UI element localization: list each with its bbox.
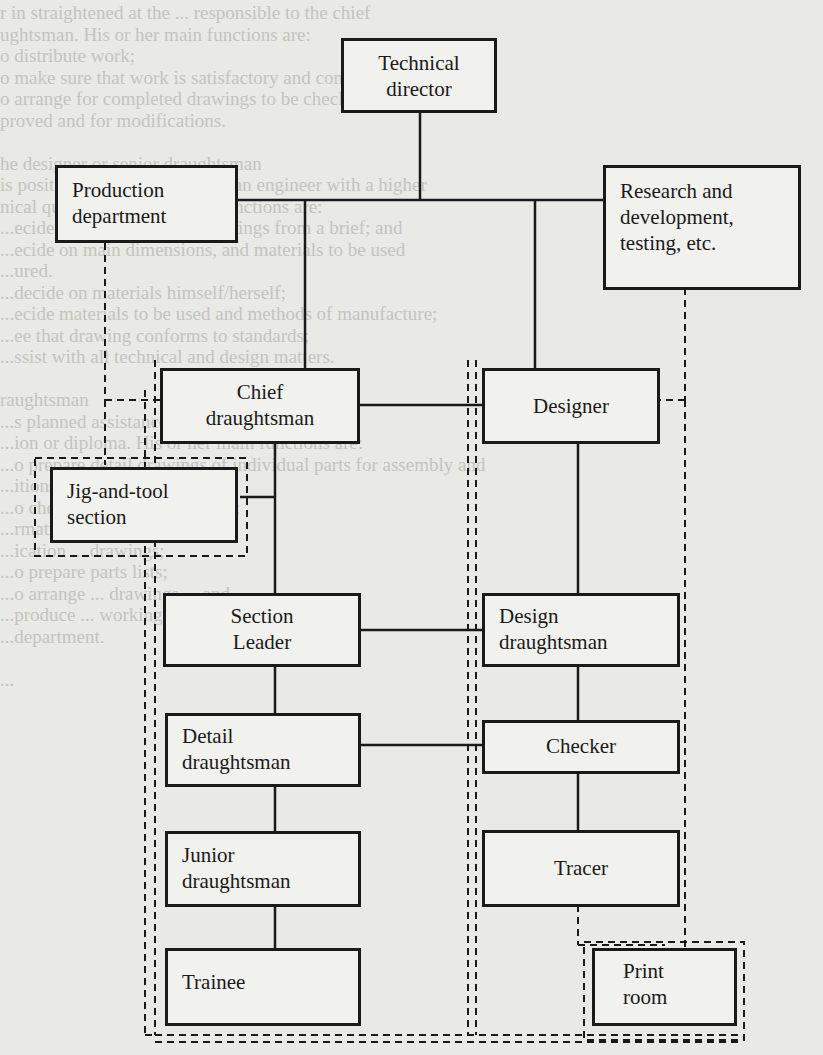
node-research-development: Research and development, testing, etc. — [603, 165, 801, 290]
node-label: testing, etc. — [620, 230, 798, 256]
node-jig-and-tool-section: Jig-and-tool section — [50, 467, 238, 543]
node-label: section — [67, 504, 235, 530]
node-label: draughtsman — [182, 749, 358, 775]
node-section-leader: Section Leader — [163, 593, 361, 667]
node-trainee: Trainee — [165, 948, 361, 1026]
node-designer: Designer — [482, 368, 660, 444]
node-label: Print — [623, 958, 734, 984]
node-label: Designer — [485, 393, 657, 419]
node-label: director — [344, 76, 494, 102]
node-label: Tracer — [485, 855, 677, 881]
node-label: Technical — [344, 50, 494, 76]
node-label: draughtsman — [163, 405, 357, 431]
node-label: draughtsman — [182, 868, 358, 894]
node-technical-director: Technical director — [341, 38, 497, 113]
node-label: Checker — [485, 733, 677, 759]
node-label: Detail — [182, 723, 358, 749]
node-label: department — [72, 203, 235, 229]
node-label: Section — [166, 603, 358, 629]
node-label: Chief — [163, 379, 357, 405]
node-label: Research and — [620, 178, 798, 204]
node-chief-draughtsman: Chief draughtsman — [160, 368, 360, 444]
node-label: Junior — [182, 842, 358, 868]
node-design-draughtsman: Design draughtsman — [482, 593, 680, 667]
node-label: draughtsman — [499, 629, 677, 655]
node-label: Jig-and-tool — [67, 478, 235, 504]
node-production-department: Production department — [55, 165, 238, 243]
node-label: Production — [72, 177, 235, 203]
node-label: Trainee — [182, 969, 358, 995]
node-detail-draughtsman: Detail draughtsman — [165, 713, 361, 787]
node-print-room: Print room — [592, 948, 737, 1026]
node-label: Leader — [166, 629, 358, 655]
node-tracer: Tracer — [482, 830, 680, 907]
node-label: room — [623, 984, 734, 1010]
node-label: Design — [499, 603, 677, 629]
node-checker: Checker — [482, 720, 680, 774]
node-label: development, — [620, 204, 798, 230]
node-junior-draughtsman: Junior draughtsman — [165, 831, 361, 907]
